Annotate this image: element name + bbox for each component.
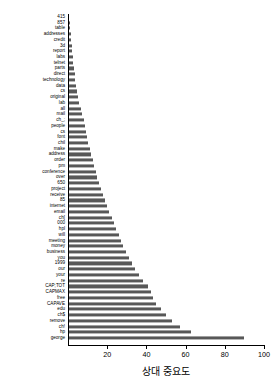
bar (68, 90, 77, 93)
bar (68, 279, 143, 282)
bar (68, 153, 91, 156)
bar (68, 130, 86, 133)
bar (68, 313, 166, 316)
x-axis-tick-label: 20 (103, 351, 111, 359)
bar (68, 107, 81, 110)
bar (68, 164, 94, 167)
bar (68, 285, 148, 288)
x-axis-tick (264, 345, 265, 349)
bar (68, 84, 76, 87)
bar (68, 268, 135, 271)
bar (68, 159, 93, 162)
bar (68, 141, 88, 144)
plot-area: 415857tableaddressescredit3dreportlabste… (68, 14, 264, 341)
bar (68, 336, 244, 339)
bar (68, 216, 112, 219)
bar (68, 170, 96, 173)
bar (68, 245, 123, 248)
x-axis-tick-label: 60 (182, 351, 190, 359)
bar (68, 119, 84, 122)
x-axis-tick (186, 345, 187, 349)
bar (68, 187, 101, 190)
x-axis-title: 상대 중요도 (68, 366, 264, 378)
bar (68, 193, 103, 196)
x-axis-line (68, 345, 264, 346)
x-axis-tick (107, 345, 108, 349)
bar (68, 78, 75, 81)
bar (68, 147, 90, 150)
category-label: george (51, 336, 65, 341)
x-axis-tick (225, 345, 226, 349)
bar (68, 101, 79, 104)
bar (68, 262, 132, 265)
x-axis-tick-label: 100 (258, 351, 270, 359)
bar (68, 113, 82, 116)
bar (68, 273, 139, 276)
bar (68, 325, 180, 328)
bar (68, 256, 129, 259)
bar (68, 319, 172, 322)
bar (68, 136, 87, 139)
bar (68, 222, 114, 225)
bar (68, 233, 119, 236)
x-axis-tick (146, 345, 147, 349)
bar (68, 96, 78, 99)
bar (68, 176, 97, 179)
bar (68, 210, 109, 213)
x-axis-tick-label: 40 (142, 351, 150, 359)
bar (68, 182, 99, 185)
y-axis-line (68, 14, 69, 345)
bar (68, 124, 85, 127)
bar (68, 331, 191, 334)
bar (68, 296, 153, 299)
x-axis-tick-label: 80 (221, 351, 229, 359)
bar (68, 308, 161, 311)
variable-importance-chart: 415857tableaddressescredit3dreportlabste… (0, 0, 278, 388)
bar (68, 302, 156, 305)
bar (68, 227, 116, 230)
bar (68, 205, 107, 208)
bar (68, 250, 126, 253)
bar (68, 239, 121, 242)
bar-row: george (68, 335, 264, 341)
bar (68, 291, 151, 294)
bar (68, 199, 105, 202)
